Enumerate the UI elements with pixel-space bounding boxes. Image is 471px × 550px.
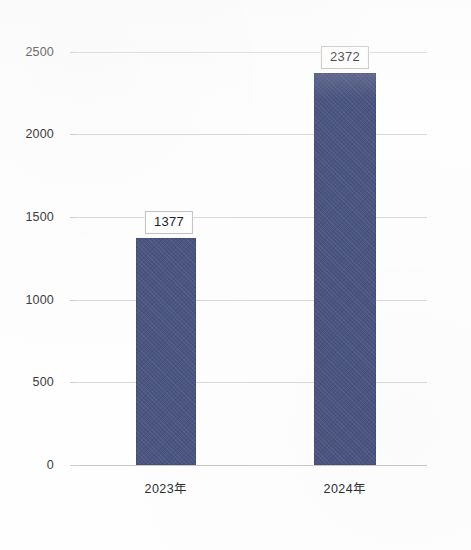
plot-area (76, 52, 427, 465)
bar-chart-figure: 2500 2000 1500 1000 500 0 1377 2372 202 (0, 0, 471, 550)
y-axis-tick-label-0: 0 (0, 458, 54, 472)
y-tick-mark-1500 (70, 217, 76, 218)
y-axis-tick-label-2500: 2500 (0, 45, 54, 59)
y-axis-tick-label-2000: 2000 (0, 127, 54, 141)
gridline-2500 (76, 52, 427, 53)
y-tick-mark-2500 (70, 52, 76, 53)
y-tick-mark-1000 (70, 300, 76, 301)
y-axis-tick-label-500: 500 (0, 375, 54, 389)
y-tick-mark-0 (70, 465, 76, 466)
y-tick-mark-2000 (70, 134, 76, 135)
data-label-2023: 1377 (145, 211, 193, 234)
bar-2023[interactable] (136, 238, 196, 466)
x-axis-tick-label-2023: 2023年 (145, 478, 188, 497)
data-label-2024: 2372 (321, 46, 369, 69)
bar-2024[interactable] (314, 73, 376, 465)
y-tick-mark-500 (70, 382, 76, 383)
y-axis-tick-label-1000: 1000 (0, 293, 54, 307)
y-axis-tick-label-1500: 1500 (0, 210, 54, 224)
gridline-baseline-0 (76, 465, 427, 466)
x-axis-tick-label-2024: 2024年 (324, 478, 367, 497)
